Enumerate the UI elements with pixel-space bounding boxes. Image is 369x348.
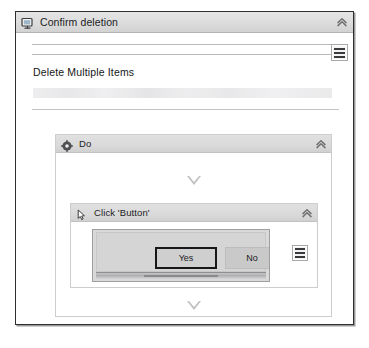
do-block-body: Click 'Button' Yes — [56, 153, 331, 316]
confirm-deletion-window: Confirm deletion Delete Multiple Items — [15, 11, 354, 325]
target-screenshot-thumbnail[interactable]: Yes No — [92, 229, 270, 282]
menu-bar-3 — [334, 56, 345, 58]
mouse-cursor-icon — [76, 207, 88, 219]
do-block-header[interactable]: Do — [56, 135, 331, 153]
window-collapse-icon[interactable] — [335, 15, 349, 29]
menu-bar-1 — [334, 48, 345, 50]
move-gear-icon — [61, 138, 73, 150]
divider-top — [32, 44, 339, 45]
do-block: Do — [55, 134, 332, 317]
screenshot-taskbar — [96, 272, 266, 279]
window-title: Confirm deletion — [40, 16, 335, 28]
screenshot-yes-button[interactable]: Yes — [155, 247, 217, 269]
click-block-header[interactable]: Click 'Button' — [71, 204, 317, 222]
menu-bar-1 — [295, 248, 305, 250]
drop-triangle-icon-lower[interactable] — [187, 301, 201, 310]
description-placeholder-bar — [33, 88, 332, 98]
click-block-title: Click 'Button' — [94, 207, 300, 218]
menu-bar-2 — [295, 252, 305, 254]
divider-second — [32, 54, 339, 55]
divider-below-description — [32, 109, 339, 110]
menu-bar-3 — [295, 256, 305, 258]
do-block-title: Do — [79, 138, 314, 149]
drop-triangle-icon-upper[interactable] — [187, 176, 201, 185]
click-block-menu-button[interactable] — [292, 245, 308, 261]
do-block-collapse-icon[interactable] — [314, 137, 328, 151]
screenshot-content: Yes No — [96, 232, 266, 272]
menu-bar-2 — [334, 52, 345, 54]
screenshot-no-button[interactable]: No — [225, 247, 270, 269]
window-menu-button[interactable] — [331, 44, 348, 61]
monitor-window-icon — [21, 16, 34, 29]
click-block: Click 'Button' Yes — [70, 203, 318, 288]
window-titlebar[interactable]: Confirm deletion — [16, 12, 353, 33]
dialog-heading: Delete Multiple Items — [33, 66, 134, 78]
click-block-body: Yes No — [71, 222, 317, 287]
click-block-collapse-icon[interactable] — [300, 206, 314, 220]
dialog-body: Delete Multiple Items Do — [16, 33, 353, 324]
